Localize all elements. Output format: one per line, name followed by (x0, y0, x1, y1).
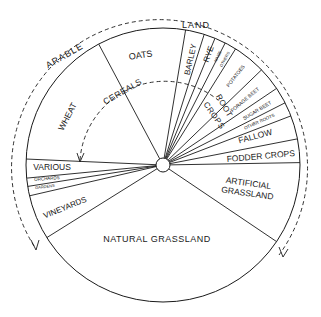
segment-label-natural-grassland: NATURAL GRASSLAND (103, 234, 211, 244)
land-use-pie-diagram: ARABLE LAND CEREALS ROOT CROPS WHEAT OAT… (0, 0, 321, 317)
arrowhead-left-icon (31, 240, 39, 250)
center-hub (156, 158, 170, 172)
land-label: LAND (182, 20, 210, 30)
segment-label-various: VARIOUS (33, 162, 71, 172)
